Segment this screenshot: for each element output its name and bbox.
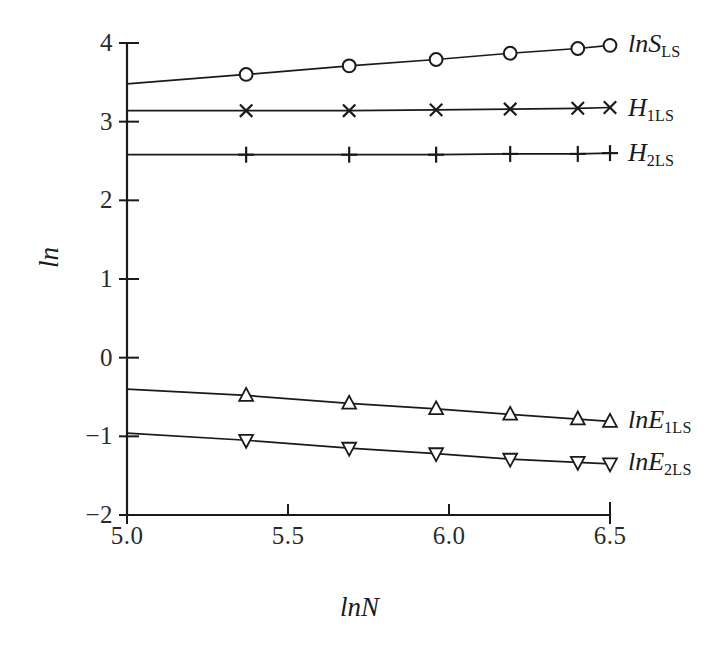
series-label-lnE_2LS: lnE2LS (628, 447, 692, 479)
x-axis-ticks (127, 502, 610, 524)
series-label-lnS_LS: lnSLS (628, 29, 680, 61)
x-tick-label: 5.5 (272, 522, 305, 550)
y-axis-ticks (119, 43, 139, 515)
x-axis-title: lnN (0, 592, 719, 623)
y-tick-label: −2 (69, 501, 113, 529)
series-layer (127, 39, 618, 471)
plot-canvas (0, 0, 719, 648)
series-lnS_LS (127, 39, 616, 84)
y-tick-label: 4 (69, 29, 113, 57)
series-label-lnE_1LS: lnE1LS (628, 405, 692, 437)
series-lnE_1LS (127, 388, 617, 427)
figure-container: 5.05.56.06.5 43210−1−2 lnSLSH1LSH2LSlnE1… (0, 0, 719, 648)
series-label-subscript: 2LS (647, 152, 674, 169)
y-tick-label: 3 (69, 108, 113, 136)
series-label-H_2LS: H2LS (628, 138, 674, 170)
series-label-main: H (628, 138, 647, 167)
x-tick-label: 6.5 (594, 522, 627, 550)
y-axis-title: ln (34, 247, 65, 268)
series-H_1LS (127, 101, 616, 117)
series-H_2LS (127, 145, 618, 163)
series-label-main: H (628, 93, 647, 122)
axis-frame (127, 43, 610, 515)
x-tick-label: 5.0 (111, 522, 144, 550)
axes-layer (119, 43, 610, 524)
series-label-subscript: LS (661, 42, 680, 59)
y-tick-label: 0 (69, 344, 113, 372)
series-label-main: lnE (628, 447, 664, 476)
series-label-subscript: 2LS (664, 461, 691, 478)
series-label-main: lnE (628, 405, 664, 434)
y-tick-label: 2 (69, 186, 113, 214)
x-tick-label: 6.0 (433, 522, 466, 550)
series-lnE_2LS (127, 433, 617, 471)
series-label-subscript: 1LS (647, 107, 674, 124)
series-label-main: lnS (628, 29, 661, 58)
series-label-subscript: 1LS (664, 418, 691, 435)
series-label-H_1LS: H1LS (628, 93, 674, 125)
y-tick-label: 1 (69, 265, 113, 293)
y-tick-label: −1 (69, 422, 113, 450)
